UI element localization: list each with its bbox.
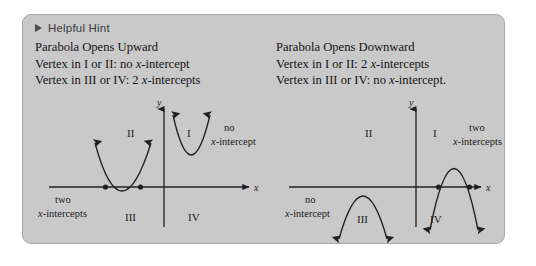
quadrant-label-I: I — [187, 127, 191, 139]
graph-opens-downward: x y II I III IV two x-intercepts no x-in… — [273, 87, 501, 239]
x-intercept-dot — [103, 184, 108, 189]
parabola-vertex-quadrant-I — [173, 115, 210, 155]
annotation-no-intercept-line1: no — [305, 194, 316, 205]
quadrant-label-III: III — [125, 211, 136, 223]
quadrant-label-I: I — [433, 127, 437, 139]
hint-title: Helpful Hint — [48, 22, 110, 34]
x-axis-label: x — [253, 182, 259, 193]
screenshot-root: Helpful Hint Parabola Opens Upward Verte… — [0, 0, 536, 266]
rule-suffix: -intercept. — [395, 73, 446, 87]
parabola-vertex-quadrant-III — [95, 143, 151, 191]
y-axis-label: y — [156, 97, 162, 108]
annotation-no-intercept-line2: x-intercept — [284, 208, 330, 219]
text-column-downward: Parabola Opens Downward Vertex in I or I… — [276, 39, 446, 89]
rule-suffix: -intercepts — [376, 57, 429, 71]
x-intercept-dot — [436, 184, 441, 189]
text-column-upward: Parabola Opens Upward Vertex in I or II:… — [35, 39, 201, 89]
x-intercept-dot — [138, 184, 143, 189]
quadrant-label-II: II — [127, 127, 135, 139]
quadrant-label-III: III — [357, 213, 368, 225]
rule-upward-1: Vertex in I or II: no x-intercept — [35, 56, 201, 73]
rule-downward-1: Vertex in I or II: 2 x-intercepts — [276, 56, 446, 73]
rule-prefix: Vertex in I or II: 2 — [276, 57, 370, 71]
heading-downward: Parabola Opens Downward — [276, 39, 446, 56]
graph-opens-upward: x y II I III IV two x-intercepts no x-in… — [33, 87, 263, 239]
rule-suffix: -intercepts — [147, 73, 200, 87]
rule-suffix: -intercept — [141, 57, 189, 71]
annotation-two-intercepts-line1: two — [55, 194, 71, 205]
quadrant-label-IV: IV — [430, 213, 442, 225]
annotation-two-intercepts-line2: x-intercepts — [452, 136, 502, 147]
annotation-two-intercepts-line2: x-intercepts — [37, 208, 87, 219]
rule-prefix: Vertex in I or II: no — [35, 57, 136, 71]
annotation-two-intercepts-line1: two — [469, 122, 485, 133]
annotation-no-intercept-line2: x-intercept — [210, 136, 256, 147]
hint-header: Helpful Hint — [35, 22, 110, 34]
quadrant-label-IV: IV — [188, 211, 200, 223]
x-axis-label: x — [485, 182, 491, 193]
helpful-hint-panel: Helpful Hint Parabola Opens Upward Verte… — [22, 14, 505, 244]
x-intercept-dot — [467, 184, 472, 189]
triangle-right-icon — [35, 24, 42, 32]
rule-prefix: Vertex in III or IV: 2 — [35, 73, 142, 87]
rule-prefix: Vertex in III or IV: no — [276, 73, 389, 87]
annotation-no-intercept-line1: no — [224, 122, 235, 133]
y-axis-label: y — [408, 97, 414, 108]
quadrant-label-II: II — [365, 127, 373, 139]
heading-upward: Parabola Opens Upward — [35, 39, 201, 56]
